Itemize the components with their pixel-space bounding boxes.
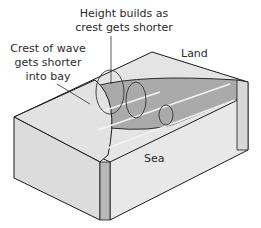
wave-refraction-diagram: Height builds as crest gets shorter Cres… [0, 0, 261, 228]
svg-text:Height builds as: Height builds as [80, 7, 169, 20]
svg-text:Crest of wave: Crest of wave [10, 42, 86, 55]
label-height-2: crest gets shorter [75, 21, 173, 34]
block-slot [100, 162, 110, 220]
label-height-1: Height builds as [80, 7, 169, 20]
block-end-face [237, 80, 248, 150]
label-crest-3: into bay [26, 70, 71, 83]
svg-text:crest gets shorter: crest gets shorter [75, 21, 173, 34]
svg-text:Land: Land [181, 47, 208, 60]
label-sea: Sea [144, 152, 165, 165]
svg-text:gets shorter: gets shorter [15, 56, 82, 69]
svg-text:Sea: Sea [144, 152, 165, 165]
label-crest-2: gets shorter [15, 56, 82, 69]
label-crest-1: Crest of wave [10, 42, 86, 55]
svg-text:into bay: into bay [26, 70, 71, 83]
label-land: Land [181, 47, 208, 60]
